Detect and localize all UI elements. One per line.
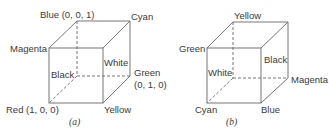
label-magenta-a: Magenta	[10, 43, 47, 54]
label-black-a: Black	[51, 69, 74, 80]
label-green-coord-a: (0, 1, 0)	[134, 79, 167, 90]
label-black-b: Black	[264, 54, 287, 65]
label-blue-b: Blue	[261, 104, 280, 115]
cube-diagrams	[0, 0, 329, 138]
label-red-a: Red (1, 0, 0)	[6, 104, 59, 115]
label-white-b: White	[208, 67, 232, 78]
label-cyan-a: Cyan	[131, 11, 153, 22]
caption-b: (b)	[226, 117, 237, 127]
label-white-a: White	[104, 57, 128, 68]
label-green-a: Green	[134, 67, 160, 78]
label-cyan-b: Cyan	[195, 104, 217, 115]
label-yellow-a: Yellow	[104, 104, 131, 115]
label-green-b: Green	[179, 43, 205, 54]
label-magenta-b: Magenta	[291, 74, 328, 85]
label-yellow-b: Yellow	[234, 10, 261, 21]
caption-a: (a)	[69, 117, 80, 127]
label-blue-a: Blue (0, 0, 1)	[40, 9, 94, 20]
